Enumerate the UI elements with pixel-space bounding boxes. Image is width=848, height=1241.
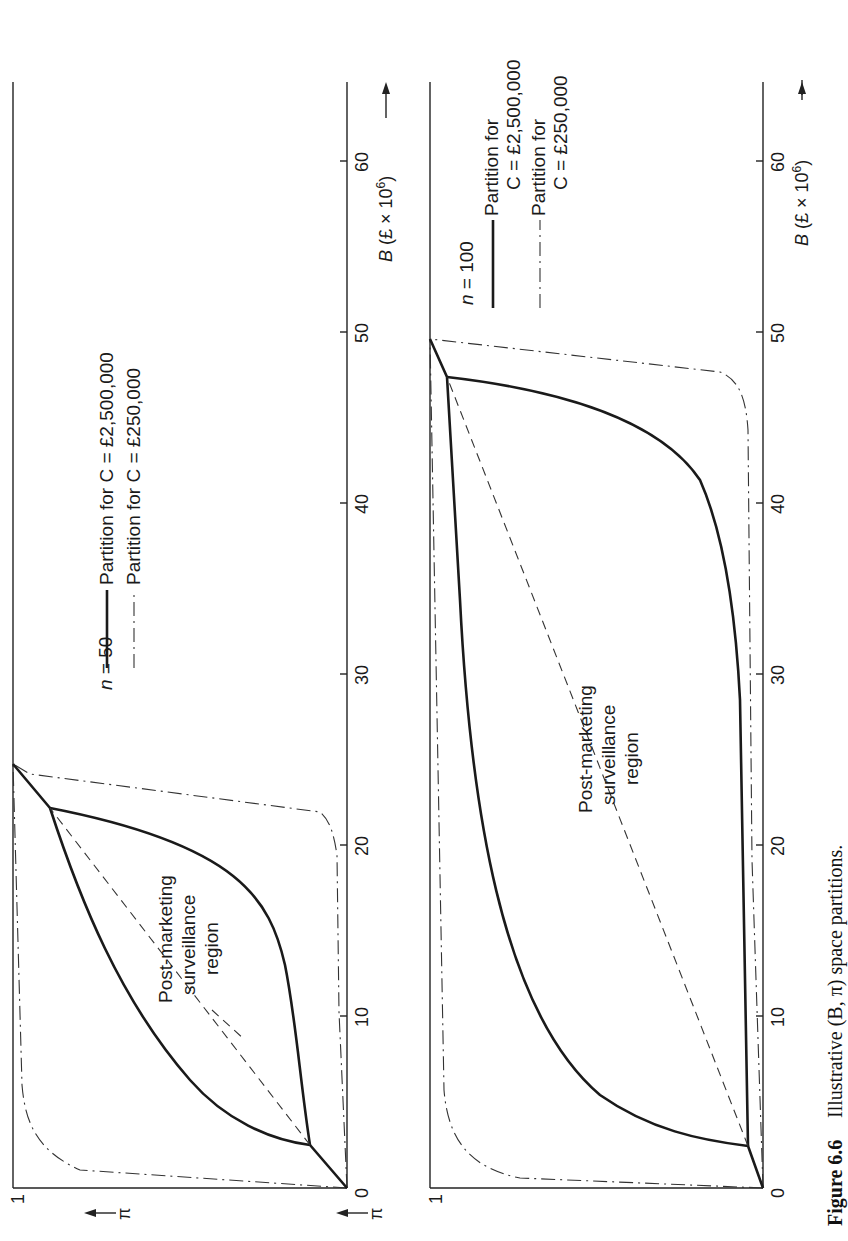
n-label: n = 50 (95, 637, 116, 690)
b-axis-ticks (340, 161, 347, 1016)
svg-text:surveillance: surveillance (598, 705, 619, 805)
caption-number: Figure 6.6 (824, 1140, 847, 1226)
tick-60: 60 (768, 152, 788, 172)
region-label: Post-marketing surveillance region (575, 685, 642, 813)
b-axis-ticks (756, 161, 763, 1016)
svg-text:surveillance: surveillance (178, 895, 199, 995)
tick-0: 0 (352, 1188, 372, 1198)
legend-dashdot-label-2: C = £250,000 (550, 75, 571, 190)
tick-50: 50 (768, 323, 788, 343)
partition-c2500k (430, 339, 763, 1188)
tick-30: 30 (352, 665, 372, 685)
tick-60: 60 (352, 152, 372, 172)
b-axis-arrow-icon (798, 80, 806, 100)
tick-20: 20 (768, 836, 788, 856)
b-axis-label: B (£ × 106) (790, 160, 812, 246)
tick-10: 10 (768, 1007, 788, 1027)
legend-panel1: n = 50 Partition for C = £2,500,000 Part… (95, 352, 144, 690)
tick-50: 50 (352, 323, 372, 343)
tick-0: 0 (768, 1188, 788, 1198)
partition-c250k-lower (430, 339, 763, 1188)
tick-10: 10 (352, 1007, 372, 1027)
caption-text: Illustrative (B, π) space partitions. (824, 845, 847, 1118)
legend-dashdot-label-1: Partition for (528, 118, 549, 216)
legend-solid-label: Partition for C = £2,500,000 (96, 352, 117, 585)
region-label: Post-marketing surveillance region (155, 875, 222, 1003)
figure-canvas: 0 10 20 30 40 50 60 B (£ × 106) 1 π (0, 0, 848, 1241)
tick-20: 20 (352, 836, 372, 856)
pi-tick-1: 1 (8, 1194, 28, 1204)
pi-axis-arrow-icon (84, 1209, 116, 1217)
legend-solid-label-1: Partition for (481, 118, 502, 216)
partition-c250k-upper (430, 339, 763, 1188)
b-axis-tick-labels: 0 10 20 30 40 50 60 (768, 152, 788, 1198)
svg-text:region: region (621, 732, 642, 785)
svg-text:Post-marketing: Post-marketing (155, 875, 176, 1003)
pi-axis-arrow-icon (336, 1209, 368, 1217)
tick-40: 40 (768, 494, 788, 514)
panel-n100: 0 10 20 30 40 50 60 B (£ × 106) 1 π (336, 60, 812, 1220)
pi-axis-label: π (366, 1208, 386, 1220)
pi-tick-1: 1 (426, 1194, 446, 1204)
tick-40: 40 (352, 494, 372, 514)
panel-n50: 0 10 20 30 40 50 60 B (£ × 106) 1 π (8, 82, 396, 1220)
b-axis-arrow-icon (382, 82, 390, 118)
figure-caption: Figure 6.6 Illustrative (B, π) space par… (824, 845, 847, 1226)
b-axis-tick-labels: 0 10 20 30 40 50 60 (352, 152, 372, 1198)
legend-panel2: n = 100 Partition for C = £2,500,000 Par… (456, 60, 571, 308)
svg-text:region: region (201, 922, 222, 975)
b-axis-label: B (£ × 106) (374, 176, 396, 262)
pi-axis-label: π (114, 1208, 134, 1220)
svg-text:Post-marketing: Post-marketing (575, 685, 596, 813)
n-label: n = 100 (456, 241, 477, 305)
legend-dashdot-label: Partition for C = £250,000 (123, 368, 144, 585)
legend-solid-label-2: C = £2,500,000 (503, 60, 524, 190)
tick-30: 30 (768, 665, 788, 685)
